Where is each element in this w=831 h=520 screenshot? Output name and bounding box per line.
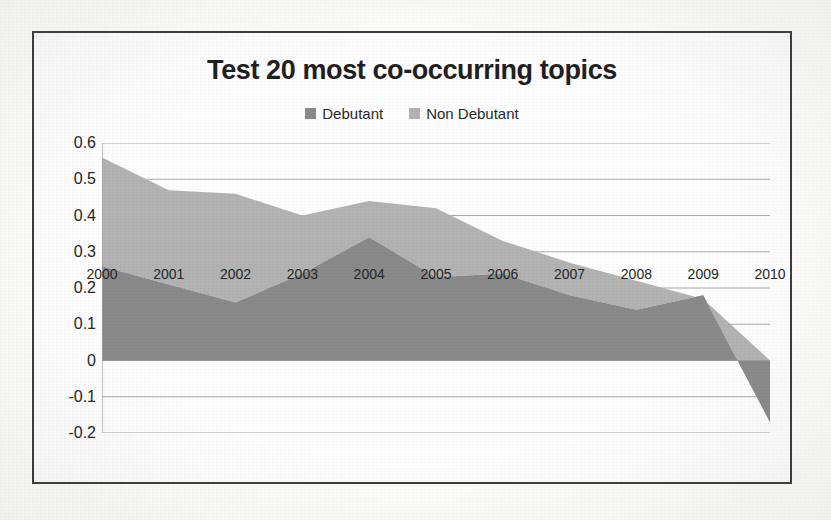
x-axis: 2000200120022003200420052006200720082009…	[34, 266, 790, 286]
y-axis-tick-label: 0.6	[74, 134, 96, 152]
chart-frame: Test 20 most co-occurring topics Debutan…	[32, 31, 792, 484]
y-axis-tick-label: -0.1	[68, 388, 96, 406]
chart-title: Test 20 most co-occurring topics	[34, 55, 790, 86]
legend-label-non-debutant: Non Debutant	[426, 105, 519, 122]
x-axis-tick-label: 2003	[287, 266, 318, 282]
plot-area	[102, 143, 770, 433]
x-axis-tick-label: 2002	[220, 266, 251, 282]
legend-swatch-debutant	[305, 108, 316, 119]
y-axis-tick-label: 0	[87, 352, 96, 370]
y-axis-tick-label: 0.1	[74, 315, 96, 333]
x-axis-tick-label: 2001	[153, 266, 184, 282]
x-axis-tick-label: 2009	[688, 266, 719, 282]
y-axis-tick-label: 0.4	[74, 207, 96, 225]
series-areas	[102, 158, 770, 423]
y-axis: 0.60.50.40.30.20.10-0.1-0.2	[34, 141, 100, 436]
legend-swatch-non-debutant	[409, 108, 420, 119]
legend-label-debutant: Debutant	[322, 105, 383, 122]
x-axis-tick-label: 2008	[621, 266, 652, 282]
x-axis-tick-label: 2000	[86, 266, 117, 282]
x-axis-tick-label: 2007	[554, 266, 585, 282]
x-axis-tick-label: 2004	[354, 266, 385, 282]
legend-item-non-debutant[interactable]: Non Debutant	[409, 105, 519, 122]
y-axis-tick-label: 0.3	[74, 243, 96, 261]
stacked-area-chart	[102, 143, 770, 433]
legend-item-debutant[interactable]: Debutant	[305, 105, 383, 122]
y-axis-tick-label: 0.5	[74, 170, 96, 188]
chart-legend: Debutant Non Debutant	[34, 105, 790, 122]
x-axis-tick-label: 2010	[754, 266, 785, 282]
x-axis-tick-label: 2006	[487, 266, 518, 282]
y-axis-tick-label: -0.2	[68, 424, 96, 442]
x-axis-tick-label: 2005	[420, 266, 451, 282]
